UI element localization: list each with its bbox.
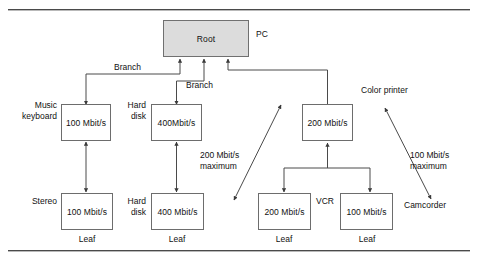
label-vcr: VCR — [316, 196, 334, 207]
node-root[interactable]: Root — [163, 20, 249, 57]
label-hard-disk-top: Hard disk — [118, 100, 146, 121]
label-max-200: 200 Mbit/s maximum — [200, 150, 239, 171]
node-vcr-label: 200 Mbit/s — [264, 207, 304, 217]
label-leaf-1: Leaf — [66, 234, 108, 245]
node-hard-disk-bottom[interactable]: 400 Mbit/s — [151, 193, 204, 230]
label-camcorder: Camcorder — [404, 200, 446, 211]
node-root-label: Root — [197, 34, 215, 44]
label-stereo: Stereo — [19, 196, 57, 207]
label-pc: PC — [256, 29, 268, 40]
node-hard-disk-top-label: 400Mbit/s — [158, 118, 196, 128]
label-max-100-line2: maximum — [410, 161, 449, 172]
label-music-keyboard-line1: Music — [9, 100, 57, 111]
label-max-100-line1: 100 Mbit/s — [410, 150, 449, 161]
label-color-printer: Color printer — [361, 85, 408, 96]
label-music-keyboard: Music keyboard — [9, 100, 57, 121]
label-hard-disk-top-line1: Hard — [118, 100, 146, 111]
node-stereo-label: 100 Mbit/s — [67, 207, 107, 217]
label-leaf-2: Leaf — [156, 234, 198, 245]
label-max-200-line2: maximum — [200, 161, 239, 172]
line-diagonal-200-max — [234, 105, 281, 200]
node-stereo[interactable]: 100 Mbit/s — [61, 193, 113, 230]
label-hard-disk-top-line2: disk — [118, 111, 146, 122]
label-max-100: 100 Mbit/s maximum — [410, 150, 449, 171]
label-hard-disk-bottom-line2: disk — [112, 207, 146, 218]
node-hub-200-label: 200 Mbit/s — [307, 118, 347, 128]
node-camcorder-leaf-label: 100 Mbit/s — [346, 207, 386, 217]
node-hard-disk-bottom-label: 400 Mbit/s — [157, 207, 197, 217]
node-hard-disk-top[interactable]: 400Mbit/s — [151, 104, 202, 141]
label-hard-disk-bottom-line1: Hard — [112, 196, 146, 207]
label-branch-2: Branch — [186, 80, 213, 91]
label-hard-disk-bottom: Hard disk — [112, 196, 146, 217]
node-vcr[interactable]: 200 Mbit/s — [258, 193, 311, 230]
label-max-200-line1: 200 Mbit/s — [200, 150, 239, 161]
label-leaf-3: Leaf — [263, 234, 305, 245]
node-hub-200[interactable]: 200 Mbit/s — [302, 104, 353, 141]
node-music-keyboard-label: 100 Mbit/s — [66, 118, 106, 128]
line-root-to-hub-200 — [228, 59, 328, 105]
label-music-keyboard-line2: keyboard — [9, 111, 57, 122]
label-leaf-4: Leaf — [346, 234, 388, 245]
node-music-keyboard[interactable]: 100 Mbit/s — [61, 104, 111, 141]
label-branch-1: Branch — [114, 62, 141, 73]
node-camcorder-leaf[interactable]: 100 Mbit/s — [340, 193, 393, 230]
figure-diagram: Root 100 Mbit/s 400Mbit/s 200 Mbit/s 100… — [0, 0, 479, 260]
